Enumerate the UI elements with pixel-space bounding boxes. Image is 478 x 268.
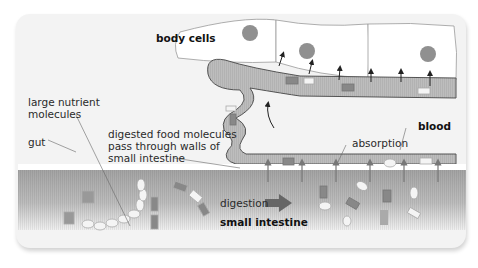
label-digested-line1: digested food molecules [108,128,237,140]
label-large-nutrient-line1: large nutrient [28,96,100,108]
label-gut: gut [28,136,45,148]
label-digestion: digestion [220,197,268,209]
label-small-intestine: small intestine [220,216,308,228]
label-large-nutrient-line2: molecules [28,108,81,120]
label-body-cells: body cells [156,32,216,44]
label-digested-line2: pass through walls of [108,140,220,152]
label-absorption: absorption [352,137,408,149]
label-digested-line3: small intestine [108,152,185,164]
label-blood: blood [418,120,451,132]
